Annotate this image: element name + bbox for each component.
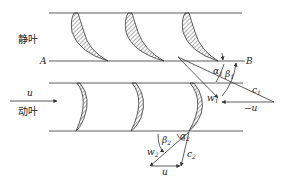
alpha1-tick [222, 53, 223, 60]
rotor-blade-3 [189, 83, 202, 131]
c1-label: c1 [252, 85, 261, 96]
point-b-label: B [245, 56, 253, 66]
beta2-label: β2 [161, 135, 171, 146]
point-a-label: A [39, 56, 47, 66]
c2-label: c2 [187, 149, 196, 160]
beta1-label: β1 [224, 69, 234, 80]
rotor-blade-1 [76, 83, 87, 131]
w1-label: w1 [207, 93, 219, 104]
alpha1-label: α1 [213, 66, 223, 77]
neg-u-label: −u [244, 103, 258, 113]
stator-blade-2 [125, 13, 164, 61]
rotor-blades [76, 83, 202, 131]
u-inflow-label: u [27, 88, 33, 98]
stator-label: 静叶 [18, 33, 38, 45]
stator-blade-1 [71, 13, 108, 61]
rotor-label: 动叶 [18, 106, 38, 117]
stator-blade-3 [182, 13, 218, 61]
w2-label: w2 [147, 147, 159, 158]
u-bottom-label: u [162, 167, 168, 177]
rotor-blade-2 [131, 83, 144, 131]
cascade-diagram: 静叶 动叶 A B u α1 β1 c1 w1 −u β2 α2 w2 c2 u [0, 0, 285, 183]
stator-blades [71, 13, 218, 61]
